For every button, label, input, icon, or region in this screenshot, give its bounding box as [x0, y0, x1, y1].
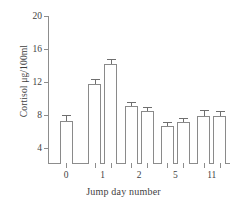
bar: [88, 84, 101, 164]
x-axis-tick: [204, 163, 205, 168]
x-axis-tick: [183, 163, 184, 168]
bar: [197, 116, 210, 164]
y-axis-tick-label: 20: [33, 11, 43, 21]
y-axis-tick: [44, 148, 49, 149]
y-axis-tick: [44, 49, 49, 50]
y-axis-tick-label: 8: [37, 110, 42, 120]
y-axis-line: [48, 16, 49, 164]
y-axis-tick-label: 16: [33, 44, 43, 54]
error-bar-cap: [163, 122, 172, 123]
x-axis-tick: [167, 163, 168, 168]
error-bar-cap: [143, 107, 152, 108]
y-axis-tick: [44, 16, 49, 17]
y-axis-tick: [44, 82, 49, 83]
x-axis-label: Jump day number: [0, 186, 247, 197]
x-axis-tick: [220, 163, 221, 168]
bar: [161, 126, 174, 164]
x-axis-tick: [111, 163, 112, 168]
x-axis-tick-label: 0: [64, 170, 69, 180]
x-axis-tick-label: 1: [100, 170, 105, 180]
x-axis-tick-label: 5: [173, 170, 178, 180]
error-bar-cap: [91, 79, 100, 80]
x-axis-tick-label: 2: [137, 170, 142, 180]
plot-area: 48121620012511: [48, 16, 230, 164]
error-bar-cap: [107, 59, 116, 60]
cortisol-bar-chart: Cortisol μg/100ml 48121620012511 Jump da…: [0, 0, 247, 210]
error-bar-cap: [200, 110, 209, 111]
x-axis-tick: [66, 163, 67, 168]
x-axis-tick: [147, 163, 148, 168]
bar: [104, 64, 117, 164]
x-axis-tick: [95, 163, 96, 168]
bar: [125, 106, 138, 164]
error-bar-cap: [127, 102, 136, 103]
error-bar-cap: [216, 111, 225, 112]
error-bar-cap: [179, 118, 188, 119]
error-bar-cap: [62, 115, 71, 116]
y-axis-tick-label: 4: [37, 143, 42, 153]
bar: [177, 122, 190, 164]
bar: [141, 111, 154, 164]
y-axis-tick: [44, 115, 49, 116]
y-axis-label: Cortisol μg/100ml: [19, 16, 29, 146]
x-axis-tick-label: 11: [207, 170, 216, 180]
bar: [213, 116, 226, 164]
bar: [60, 121, 73, 164]
y-axis-tick-label: 12: [33, 77, 43, 87]
x-axis-tick: [131, 163, 132, 168]
